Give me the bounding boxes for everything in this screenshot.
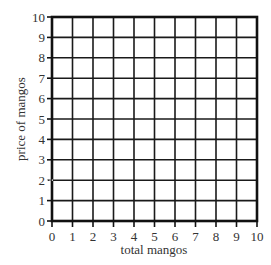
x-tick-label: 7 bbox=[192, 229, 199, 244]
y-tick-label: 7 bbox=[39, 71, 46, 86]
y-tick-label: 3 bbox=[39, 152, 46, 167]
y-tick-label: 4 bbox=[39, 132, 46, 147]
x-tick-label: 8 bbox=[213, 229, 220, 244]
y-tick-label: 1 bbox=[39, 193, 46, 208]
x-tick-label: 0 bbox=[49, 229, 56, 244]
y-tick-label: 0 bbox=[39, 214, 46, 229]
x-axis-label: total mangos bbox=[121, 242, 188, 257]
y-tick-label: 2 bbox=[39, 173, 46, 188]
x-tick-label: 1 bbox=[69, 229, 76, 244]
grid-lines bbox=[52, 17, 257, 221]
empty-grid-chart: 012345678910 012345678910 total mangos p… bbox=[0, 0, 271, 265]
y-tick-label: 8 bbox=[39, 50, 46, 65]
y-axis-tick-labels: 012345678910 bbox=[32, 10, 46, 229]
x-tick-label: 10 bbox=[251, 229, 264, 244]
x-tick-label: 3 bbox=[110, 229, 117, 244]
y-tick-label: 10 bbox=[32, 10, 45, 25]
y-tick-label: 5 bbox=[39, 112, 46, 127]
x-tick-label: 9 bbox=[233, 229, 240, 244]
x-tick-label: 2 bbox=[90, 229, 97, 244]
y-tick-label: 6 bbox=[39, 91, 46, 106]
y-tick-label: 9 bbox=[39, 30, 46, 45]
y-axis-label: price of mangos bbox=[13, 77, 28, 161]
